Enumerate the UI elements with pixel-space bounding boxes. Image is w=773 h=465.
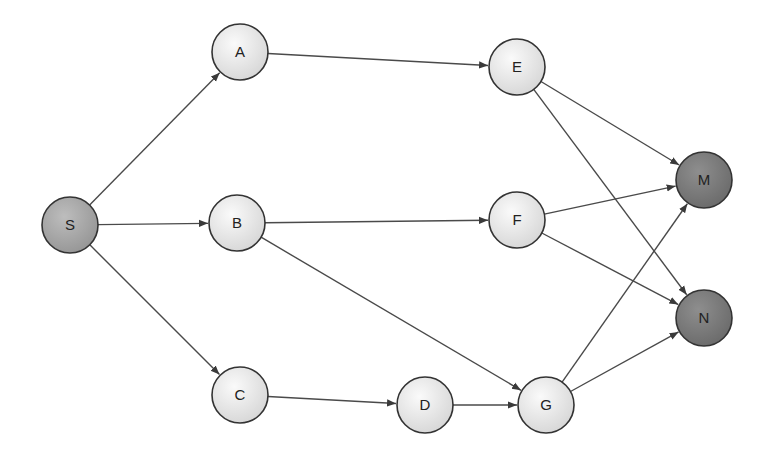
node-label: F <box>512 211 521 228</box>
node-label: A <box>235 43 245 60</box>
node-label: C <box>235 386 246 403</box>
node-label: D <box>420 396 431 413</box>
edge-g-to-n <box>571 332 679 392</box>
edge-a-to-e <box>268 54 488 66</box>
node-label: M <box>698 171 711 188</box>
node-label: G <box>540 396 552 413</box>
node-d: D <box>397 377 453 433</box>
edge-b-to-g <box>261 237 521 390</box>
node-m: M <box>676 152 732 208</box>
edge-g-to-m <box>562 204 687 382</box>
node-n: N <box>676 290 732 346</box>
edge-f-to-m <box>544 186 675 214</box>
graph-diagram: SABCDEFGMN <box>0 0 773 465</box>
node-s: S <box>42 197 98 253</box>
node-e: E <box>489 39 545 95</box>
edge-b-to-f <box>265 220 488 222</box>
edge-s-to-b <box>98 223 208 224</box>
edge-e-to-n <box>534 89 687 294</box>
node-label: E <box>512 58 522 75</box>
edge-f-to-n <box>542 233 679 305</box>
node-label: N <box>699 309 710 326</box>
node-c: C <box>212 367 268 423</box>
edge-e-to-m <box>541 81 679 165</box>
edges-layer <box>90 54 688 405</box>
node-a: A <box>212 24 268 80</box>
node-label: S <box>65 216 75 233</box>
node-label: B <box>232 214 242 231</box>
node-g: G <box>518 377 574 433</box>
edge-c-to-d <box>268 397 396 404</box>
edge-s-to-a <box>90 73 220 205</box>
node-f: F <box>489 192 545 248</box>
edge-s-to-c <box>90 245 220 375</box>
nodes-layer: SABCDEFGMN <box>42 24 732 433</box>
node-b: B <box>209 195 265 251</box>
